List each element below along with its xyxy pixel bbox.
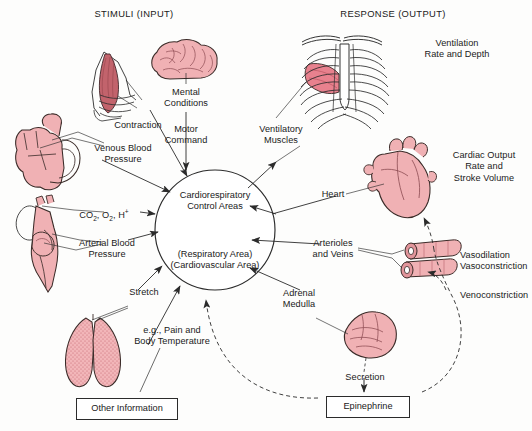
label-mental-conditions: Mental Conditions [154,87,218,110]
figure-canvas: STIMULI (INPUT) RESPONSE (OUTPUT) Cardio… [0,0,532,431]
brain-illustration [152,40,217,84]
header-response: RESPONSE (OUTPUT) [308,8,478,19]
box-other-information[interactable]: Other Information [76,398,178,420]
box-epinephrine[interactable]: Epinephrine [326,396,410,418]
center-subtitle-line1: (Respiratory Area) [150,249,280,260]
header-stimuli: STIMULI (INPUT) [54,8,214,19]
label-stretch: Stretch [120,287,168,298]
heart-illustration [346,137,437,218]
label-arterial-blood-pressure: Arterial Blood Pressure [66,238,148,261]
label-venoconstriction: Venoconstriction [460,290,532,301]
center-title-line1: Cardiorespiratory [150,190,280,201]
label-ventilatory-muscles: Ventilatory Muscles [248,124,314,147]
control-center-circle [155,170,275,290]
rib-cage-illustration [276,36,389,129]
label-arterioles-veins: Arterioles and Veins [302,238,364,261]
label-venous-blood-pressure: Venous Blood Pressure [82,143,164,166]
label-cardiac-output: Cardiac Output Rate and Stroke Volume [438,150,530,184]
label-blood-gases: CO2, O2, H+ [72,206,136,224]
vessels-illustration [358,240,461,278]
label-vasodilation: Vasodilation Vasoconstriction [460,250,532,273]
output-leader-lines [276,146,300,162]
skeletal-muscle-illustration [92,52,142,121]
dashed-to-control-center [206,300,318,398]
leader-other-information [140,348,160,392]
label-secretion: Secretion [336,372,394,383]
label-heart: Heart [314,189,352,200]
label-ventilation-rate-depth: Ventilation Rate and Depth [404,38,510,61]
center-subtitle-line2: (Cardiovascular Area) [150,260,280,271]
lungs-illustration [65,306,128,387]
label-pain-temperature: e.g., Pain and Body Temperature [120,325,224,348]
center-title-line2: Control Areas [150,201,280,212]
label-adrenal-medulla: Adrenal Medulla [272,288,326,311]
adrenal-gland-illustration [316,312,396,372]
arrow-ventilatory-muscles [248,162,276,188]
